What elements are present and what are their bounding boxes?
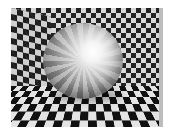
- right-wall-edge: [159, 8, 163, 127]
- rendered-scene: [11, 8, 163, 127]
- reflective-sphere: [43, 23, 123, 99]
